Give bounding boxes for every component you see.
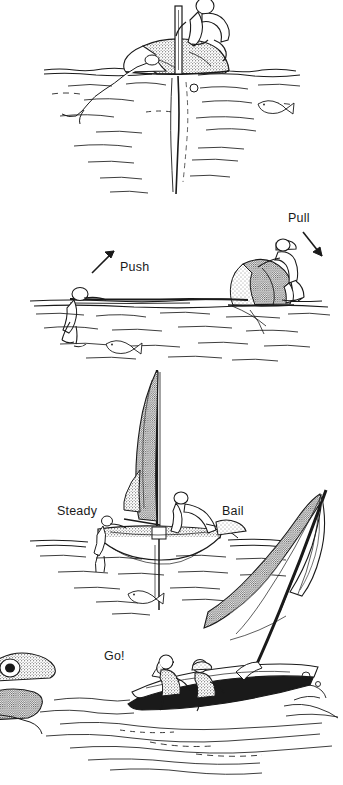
centerboard-1 — [175, 6, 182, 74]
label-go: Go! — [104, 650, 125, 663]
label-steady: Steady — [57, 505, 97, 518]
label-push: Push — [120, 261, 149, 274]
capsize-recovery-illustration — [0, 0, 343, 785]
illustration-page: Push Pull Steady Bail Go! — [0, 0, 343, 785]
label-bail: Bail — [222, 505, 244, 518]
label-pull: Pull — [288, 212, 310, 225]
